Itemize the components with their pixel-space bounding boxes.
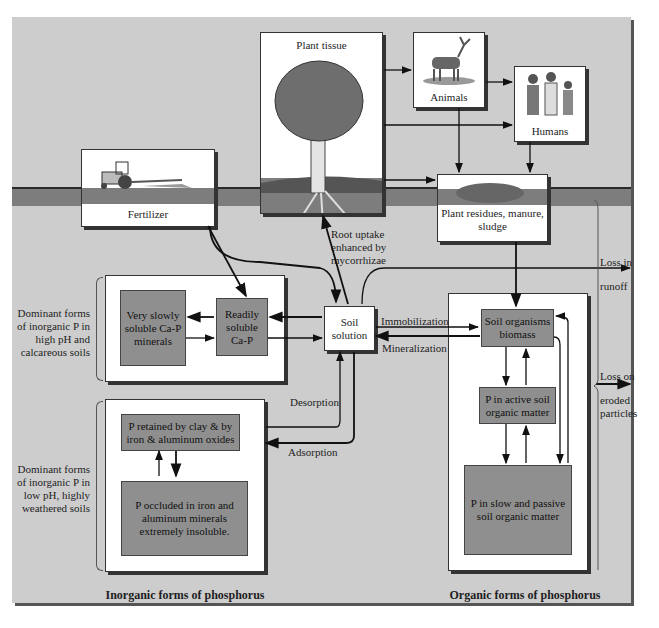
flow-arrows	[0, 0, 659, 628]
